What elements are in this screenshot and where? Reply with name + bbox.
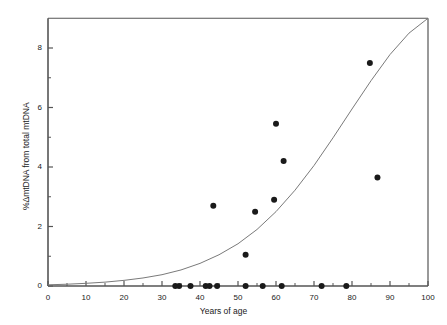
data-point (214, 283, 220, 289)
plot-frame (48, 18, 428, 286)
y-tick-label: 0 (22, 282, 42, 290)
data-point (374, 174, 380, 180)
x-axis-title: Years of age (0, 307, 447, 316)
x-tick-label: 10 (72, 294, 100, 302)
data-point (273, 121, 279, 127)
data-point (279, 283, 285, 289)
x-tick-label: 70 (300, 294, 328, 302)
x-tick-label: 90 (376, 294, 404, 302)
data-point (343, 283, 349, 289)
x-tick-label: 0 (34, 294, 62, 302)
y-tick-label: 8 (22, 44, 42, 52)
x-tick-label: 20 (110, 294, 138, 302)
data-point (271, 197, 277, 203)
data-point (188, 283, 194, 289)
x-tick-label: 40 (186, 294, 214, 302)
fit-curve (48, 18, 428, 285)
data-point (210, 203, 216, 209)
data-point (281, 158, 287, 164)
data-point (367, 60, 373, 66)
y-axis-title: %ΔmtDNA from total mtDNA (22, 86, 31, 226)
x-tick-label: 50 (224, 294, 252, 302)
x-tick-label: 100 (414, 294, 442, 302)
x-tick-label: 60 (262, 294, 290, 302)
data-point (207, 283, 213, 289)
chart-figure: 0102030405060708090100 02468 Years of ag… (0, 0, 447, 325)
scatter-plot-canvas (0, 0, 447, 325)
data-point (319, 283, 325, 289)
data-point (176, 283, 182, 289)
data-point (243, 252, 249, 258)
data-point (260, 283, 266, 289)
x-tick-label: 30 (148, 294, 176, 302)
data-point (252, 209, 258, 215)
x-tick-label: 80 (338, 294, 366, 302)
data-points (172, 60, 380, 289)
data-point (243, 283, 249, 289)
axis-ticks (48, 48, 428, 286)
